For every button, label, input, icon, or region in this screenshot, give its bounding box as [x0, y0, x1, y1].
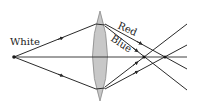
- point-source: [12, 55, 16, 59]
- arrow-icon: [133, 48, 137, 51]
- arrow-icon: [133, 72, 137, 74]
- incoming-ray-lower: [14, 57, 96, 89]
- red-ray-lower: [105, 45, 187, 89]
- red-focal-point: [163, 55, 166, 58]
- chromatic-aberration-diagram: White Red Blue: [0, 0, 199, 107]
- white-label: White: [10, 36, 40, 47]
- diagram-canvas: White Red Blue: [0, 0, 199, 107]
- arrow-icon: [133, 62, 137, 65]
- arrow-icon: [137, 42, 141, 44]
- blue-focal-point: [142, 55, 145, 58]
